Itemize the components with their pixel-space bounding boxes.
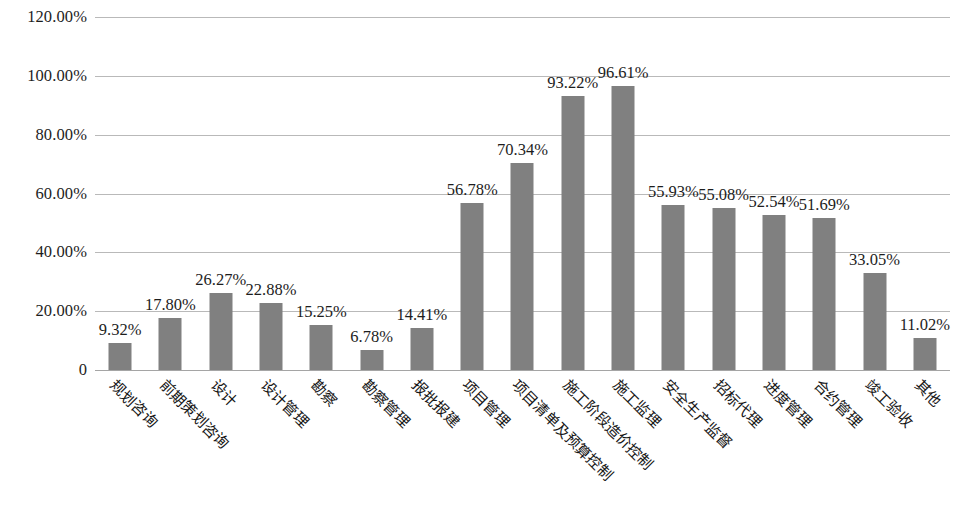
bar-value-label: 17.80% (145, 297, 196, 314)
x-axis-category-label: 勘察 (309, 377, 341, 409)
bars-layer: 9.32%17.80%26.27%22.88%15.25%6.78%14.41%… (95, 17, 950, 370)
bar-value-label: 55.08% (698, 187, 749, 204)
bar-slot: 55.93% (648, 17, 698, 370)
bar-value-label: 33.05% (849, 252, 900, 269)
bar[interactable] (209, 293, 232, 370)
bar[interactable] (260, 303, 283, 370)
x-axis-label-slot: 合约管理 (799, 371, 849, 519)
bar[interactable] (813, 218, 836, 370)
x-axis-category-labels: 规划咨询前期策划咨询设计设计管理勘察勘察管理报批报建项目管理项目清单及预算控制施… (95, 371, 950, 519)
bar-slot: 14.41% (397, 17, 447, 370)
bar-slot: 52.54% (749, 17, 799, 370)
y-axis-tick-label: 20.00% (36, 303, 87, 320)
bar-slot: 15.25% (296, 17, 346, 370)
bar-value-label: 14.41% (396, 307, 447, 324)
bar-value-label: 93.22% (547, 75, 598, 92)
bar-value-label: 9.32% (99, 322, 142, 339)
x-axis-label-slot: 其他 (900, 371, 950, 519)
bar[interactable] (762, 215, 785, 370)
plot-area: 9.32%17.80%26.27%22.88%15.25%6.78%14.41%… (95, 17, 950, 370)
bar[interactable] (360, 350, 383, 370)
bar[interactable] (159, 318, 182, 370)
x-axis-label-slot: 设计管理 (246, 371, 296, 519)
bar-value-label: 26.27% (195, 272, 246, 289)
bar[interactable] (712, 208, 735, 370)
bar-slot: 33.05% (849, 17, 899, 370)
bar-value-label: 22.88% (246, 282, 297, 299)
bar[interactable] (410, 328, 433, 370)
y-axis-tick-label: 40.00% (36, 244, 87, 261)
bar-value-label: 15.25% (296, 304, 347, 321)
x-axis-label-slot: 安全生产监督 (648, 371, 698, 519)
bar[interactable] (461, 203, 484, 370)
y-axis-tick-label: 80.00% (36, 126, 87, 143)
bar-value-label: 51.69% (799, 197, 850, 214)
bar[interactable] (561, 96, 584, 370)
x-axis-label-slot: 进度管理 (749, 371, 799, 519)
bar[interactable] (662, 205, 685, 370)
bar-slot: 26.27% (196, 17, 246, 370)
bar-slot: 56.78% (447, 17, 497, 370)
bar-value-label: 6.78% (350, 329, 393, 346)
x-axis-label-slot: 勘察管理 (346, 371, 396, 519)
bar-slot: 17.80% (145, 17, 195, 370)
y-axis-tick-label: 100.00% (27, 68, 87, 85)
y-axis-tick-label: 60.00% (36, 185, 87, 202)
bar[interactable] (310, 325, 333, 370)
y-axis-tick-label: 0 (79, 362, 87, 379)
x-axis-category-label: 设计 (208, 377, 240, 409)
y-axis-tick-label: 120.00% (27, 9, 87, 26)
bar-slot: 9.32% (95, 17, 145, 370)
bar[interactable] (612, 86, 635, 370)
bar-value-label: 96.61% (598, 65, 649, 82)
x-axis-label-slot: 前期策划咨询 (145, 371, 195, 519)
x-axis-category-label: 其他 (912, 377, 944, 409)
bar-value-label: 11.02% (900, 317, 950, 334)
y-axis: 020.00%40.00%60.00%80.00%100.00%120.00% (0, 0, 95, 519)
bar-value-label: 52.54% (749, 194, 800, 211)
bar-slot: 11.02% (900, 17, 950, 370)
x-axis-label-slot: 项目清单及预算控制 (497, 371, 547, 519)
bar[interactable] (511, 163, 534, 370)
bar-slot: 22.88% (246, 17, 296, 370)
x-axis-label-slot: 招标代理 (699, 371, 749, 519)
x-axis-label-slot: 规划咨询 (95, 371, 145, 519)
bar-chart: 020.00%40.00%60.00%80.00%100.00%120.00% … (0, 0, 960, 519)
bar-value-label: 56.78% (447, 182, 498, 199)
bar-slot: 96.61% (598, 17, 648, 370)
bar-value-label: 70.34% (497, 142, 548, 159)
bar[interactable] (109, 343, 132, 370)
x-axis-label-slot: 竣工验收 (849, 371, 899, 519)
x-axis-label-slot: 施工阶段造价控制 (548, 371, 598, 519)
bar-slot: 55.08% (699, 17, 749, 370)
x-axis-label-slot: 施工监理 (598, 371, 648, 519)
x-axis-label-slot: 设计 (196, 371, 246, 519)
x-axis-label-slot: 项目管理 (447, 371, 497, 519)
x-axis-label-slot: 报批报建 (397, 371, 447, 519)
bar-value-label: 55.93% (648, 184, 699, 201)
bar-slot: 51.69% (799, 17, 849, 370)
x-axis-label-slot: 勘察 (296, 371, 346, 519)
bar-slot: 93.22% (548, 17, 598, 370)
bar[interactable] (913, 338, 936, 370)
bar[interactable] (863, 273, 886, 370)
bar-slot: 6.78% (346, 17, 396, 370)
bar-slot: 70.34% (497, 17, 547, 370)
